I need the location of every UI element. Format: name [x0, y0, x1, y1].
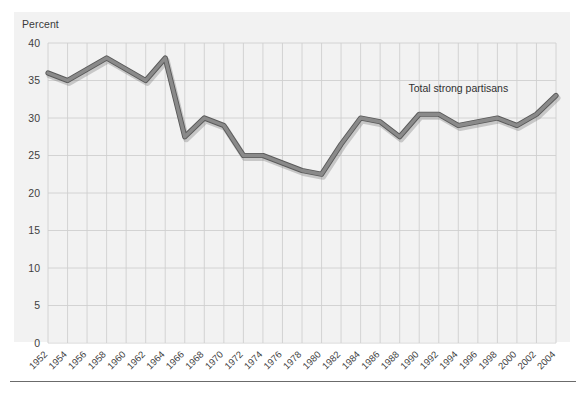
y-axis-tick-label: 40 — [28, 37, 40, 49]
x-axis-tick-label: 1984 — [339, 349, 362, 372]
x-axis-tick-label: 1970 — [203, 349, 226, 372]
x-axis-tick-label: 1962 — [124, 349, 147, 372]
x-axis-tick-label: 1960 — [105, 349, 128, 372]
y-axis-tick-label: 5 — [34, 299, 40, 311]
x-axis-tick-label: 1964 — [144, 349, 167, 372]
x-axis-tick-label: 1996 — [457, 349, 480, 372]
y-axis-tick-label: 35 — [28, 74, 40, 86]
x-axis-tick-label: 1952 — [27, 349, 50, 372]
y-axis-tick-label: 30 — [28, 112, 40, 124]
y-axis-tick-label: 10 — [28, 262, 40, 274]
line-chart-svg: 0510152025303540 19521954195619581960196… — [0, 0, 586, 402]
x-axis-tick-label: 1986 — [359, 349, 382, 372]
x-axis-tick-label: 1988 — [378, 349, 401, 372]
y-axis-tick-label: 15 — [28, 224, 40, 236]
annotation-text: Total strong partisans — [408, 82, 508, 94]
x-axis-tick-label: 1980 — [300, 349, 323, 372]
chart-figure: Percent 0510152025303540 195219541956195… — [0, 0, 586, 402]
x-axis-tick-label: 1992 — [417, 349, 440, 372]
x-axis-tick-label: 1976 — [261, 349, 284, 372]
x-axis-tick-label: 2000 — [496, 349, 519, 372]
x-axis-tick-label: 1990 — [398, 349, 421, 372]
x-axis-tick-label: 1972 — [222, 349, 245, 372]
data-series-total-strong-partisans — [48, 58, 558, 177]
y-axis-tick-label: 20 — [28, 187, 40, 199]
x-axis-tick-labels: 1952195419561958196019621964196619681970… — [27, 349, 558, 372]
x-axis-tick-label: 1978 — [281, 349, 304, 372]
x-axis-tick-label: 1998 — [476, 349, 499, 372]
y-axis-tick-label: 0 — [34, 337, 40, 349]
x-axis-tick-label: 1974 — [242, 349, 265, 372]
series-annotation-label: Total strong partisans — [408, 82, 508, 94]
plot-area: 0510152025303540 19521954195619581960196… — [0, 0, 586, 402]
x-axis-tick-label: 1982 — [320, 349, 343, 372]
x-axis-tick-label: 1954 — [46, 349, 69, 372]
y-axis-tick-labels: 0510152025303540 — [28, 37, 40, 349]
x-axis-tick-label: 2002 — [515, 349, 538, 372]
y-axis-tick-label: 25 — [28, 149, 40, 161]
x-axis-tick-label: 1966 — [163, 349, 186, 372]
x-axis-tick-label: 2004 — [535, 349, 558, 372]
x-axis-tick-label: 1958 — [85, 349, 108, 372]
bottom-horizontal-rule — [10, 381, 576, 382]
x-axis-tick-label: 1968 — [183, 349, 206, 372]
x-axis-tick-label: 1994 — [437, 349, 460, 372]
x-axis-tick-label: 1956 — [66, 349, 89, 372]
